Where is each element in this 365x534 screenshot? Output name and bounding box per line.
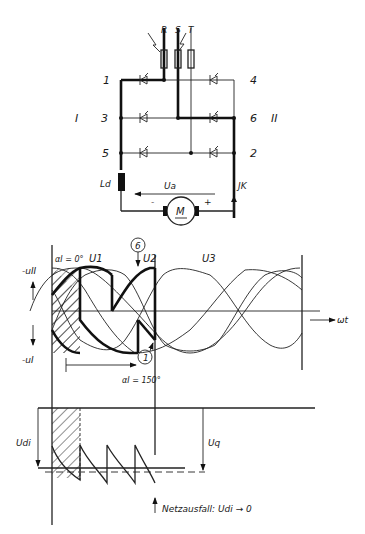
hatched-area (52, 268, 80, 353)
waveform-plot: -uII -uI ωt U1 U2 U3 αI = 0° αI = 150° 6… (22, 238, 349, 525)
lightning-icon (148, 33, 160, 52)
thyristor-4 (210, 73, 218, 85)
label-udi: Udi (16, 438, 31, 448)
label-phase-t: T (188, 25, 195, 35)
label-alpha-end: αI = 150° (122, 376, 161, 385)
label-current: JK (236, 181, 248, 191)
label-minus-u2: -uII (22, 266, 37, 276)
label-thyristor-3: 3 (101, 112, 108, 125)
label-thyristor-1: 1 (103, 74, 110, 87)
label-motor: M (176, 206, 185, 217)
label-thyristor-2: 2 (250, 147, 257, 160)
polarity-minus: - (151, 197, 154, 207)
sine-phase-d (52, 268, 302, 353)
label-thyristor-5: 5 (102, 147, 109, 160)
label-phase-s: S (175, 25, 181, 35)
thyristor-3 (140, 111, 148, 123)
thyristor-5 (140, 146, 148, 158)
label-u1: U1 (89, 253, 103, 264)
thyristor-2 (210, 146, 218, 158)
label-inductor: Ld (100, 179, 111, 189)
label-phase-r: R (161, 25, 167, 35)
sine-phase-b (52, 269, 302, 350)
footer-caption: Netzausfall: Udi → 0 (155, 498, 252, 514)
inductor-ld (118, 173, 125, 191)
polarity-plus: + (204, 197, 212, 207)
label-group-1: I (75, 112, 78, 125)
label-uq: Uq (208, 438, 221, 448)
label-thyristor-4: 4 (250, 74, 257, 87)
caption-text: Netzausfall: Udi → 0 (162, 504, 252, 514)
label-minus-u1: -uI (22, 355, 34, 365)
label-thyristor-6: 6 (250, 112, 257, 125)
label-u2: U2 (143, 253, 157, 264)
label-omega-t: ωt (337, 315, 349, 325)
marker-6-label: 6 (135, 241, 141, 251)
diagram-canvas: R S T 1 3 5 4 6 2 (0, 0, 365, 534)
bridge-circuit: R S T 1 3 5 4 6 2 (75, 25, 278, 225)
marker-1-label: 1 (143, 353, 149, 363)
current-arrow-icon (231, 196, 237, 202)
label-voltage: Ua (164, 181, 176, 191)
label-group-2: II (271, 112, 278, 125)
dc-voltage-plot: Udi Uq (16, 408, 315, 483)
label-u3: U3 (202, 253, 216, 264)
label-alpha-start: αI = 0° (55, 255, 84, 264)
